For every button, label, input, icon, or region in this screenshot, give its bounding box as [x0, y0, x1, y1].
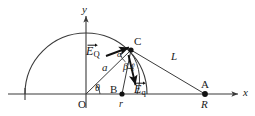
point-label-B: B — [110, 84, 117, 95]
segment-label-l: ℓ — [130, 62, 135, 73]
physics-diagram: y x O C B A a ℓ r R L θ α β EQ Eq — [0, 0, 255, 116]
segment-label-r: r — [119, 99, 123, 109]
origin-label: O — [78, 99, 86, 110]
diagram-canvas — [0, 0, 255, 116]
vector-arrow-overbar-q — [135, 80, 146, 85]
y-axis-label: y — [82, 4, 87, 15]
point-dot-A — [202, 91, 208, 97]
segment-label-a: a — [102, 62, 108, 73]
vector-label-E-q: Eq — [134, 83, 146, 97]
point-label-A: A — [201, 79, 209, 90]
vector-subscript-Q: Q — [94, 49, 100, 59]
point-label-C: C — [134, 36, 141, 47]
angle-label-theta: θ — [95, 83, 100, 93]
point-dot-C — [128, 47, 133, 52]
point-dot-B — [119, 91, 124, 96]
x-axis-label: x — [243, 87, 248, 98]
vector-arrow-overbar-Q — [87, 42, 98, 47]
vector-label-E-Q: EQ — [86, 45, 100, 59]
angle-label-alpha: α — [117, 50, 122, 59]
segment-label-R: R — [201, 99, 208, 110]
angle-label-beta: β — [123, 62, 128, 72]
vector-subscript-q: q — [142, 87, 146, 97]
segment-label-L: L — [171, 51, 177, 62]
